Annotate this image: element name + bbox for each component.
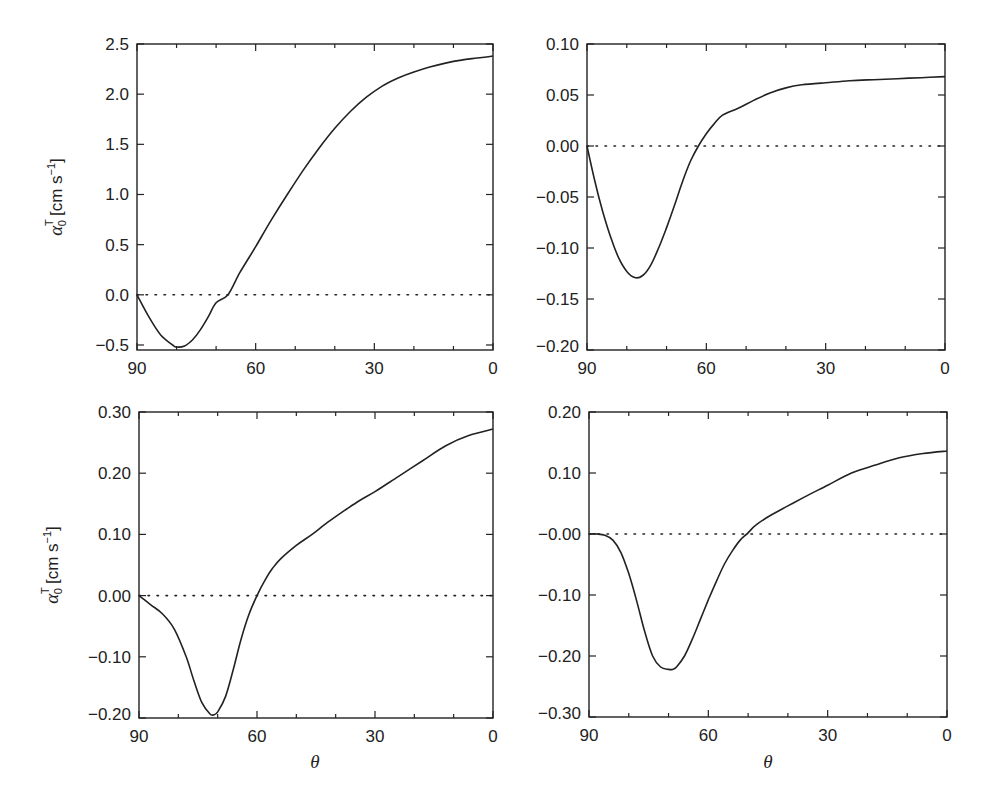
y-tick-label: 0.05	[546, 86, 579, 105]
y-tick-label: 0.00	[546, 137, 579, 156]
panel-bottom-right: 9060300−0.30−0.20−0.10−0.000.100.20	[538, 403, 952, 745]
x-tick-label: 60	[699, 726, 718, 745]
x-axis-label-bottom-left: θ	[310, 751, 319, 772]
y-tick-label: 0.10	[98, 525, 131, 544]
x-axis-label-bottom-right: θ	[763, 751, 772, 772]
y-tick-label: −0.10	[88, 648, 131, 667]
y-tick-label: −0.20	[88, 705, 131, 724]
x-tick-label: 0	[942, 726, 951, 745]
y-axis-label-top: αT0[cm s−1]	[43, 158, 68, 236]
data-curve	[589, 451, 947, 670]
x-tick-label: 0	[488, 359, 497, 378]
x-tick-label: 0	[940, 359, 949, 378]
y-tick-label: 0.30	[98, 403, 131, 422]
y-tick-label: 2.0	[105, 85, 129, 104]
four-panel-line-chart: 9060300−0.50.00.51.01.52.02.5 9060300−0.…	[0, 0, 982, 808]
y-tick-label: −0.10	[538, 586, 581, 605]
panel-bottom-left: 9060300−0.20−0.100.000.100.200.30	[88, 403, 498, 746]
x-tick-label: 90	[578, 359, 597, 378]
svg-text:αT0[cm s−1]: αT0[cm s−1]	[43, 158, 68, 236]
x-tick-label: 90	[580, 726, 599, 745]
data-curve	[587, 77, 945, 278]
y-tick-label: 0.20	[98, 464, 131, 483]
data-curve	[137, 56, 493, 347]
x-tick-label: 90	[130, 727, 149, 746]
y-tick-label: −0.20	[536, 337, 579, 356]
y-tick-label: −0.5	[95, 336, 129, 355]
x-tick-label: 60	[697, 359, 716, 378]
x-tick-label: 30	[818, 726, 837, 745]
x-tick-label: 30	[366, 727, 385, 746]
y-tick-label: 2.5	[105, 35, 129, 54]
x-tick-label: 60	[246, 359, 265, 378]
y-tick-label: −0.10	[536, 239, 579, 258]
y-tick-label: 0.5	[105, 236, 129, 255]
y-tick-label: 0.10	[546, 35, 579, 54]
x-tick-label: 0	[488, 727, 497, 746]
svg-text:αT0[cm s−1]: αT0[cm s−1]	[39, 526, 64, 604]
plot-frame	[589, 412, 947, 717]
figure: 9060300−0.50.00.51.01.52.02.5 9060300−0.…	[0, 0, 982, 808]
y-tick-label: 0.00	[98, 587, 131, 606]
y-tick-label: −0.15	[536, 290, 579, 309]
y-axis-label-bottom: αT0[cm s−1]	[39, 526, 64, 604]
y-tick-label: −0.20	[538, 647, 581, 666]
x-tick-label: 90	[128, 359, 147, 378]
x-tick-label: 30	[365, 359, 384, 378]
plot-frame	[139, 412, 493, 718]
y-tick-label: 0.20	[548, 403, 581, 422]
plot-frame	[587, 44, 945, 350]
y-tick-label: −0.05	[536, 188, 579, 207]
y-tick-label: −0.00	[538, 525, 581, 544]
y-tick-label: 0.10	[548, 464, 581, 483]
x-tick-label: 30	[816, 359, 835, 378]
panel-top-left: 9060300−0.50.00.51.01.52.02.5	[95, 35, 497, 378]
data-curve	[139, 429, 493, 715]
plot-frame	[137, 44, 493, 350]
y-tick-label: 0.0	[105, 286, 129, 305]
y-tick-label: 1.0	[105, 185, 129, 204]
y-tick-label: −0.30	[538, 704, 581, 723]
panel-top-right: 9060300−0.20−0.15−0.10−0.050.000.050.10	[536, 35, 950, 378]
y-tick-label: 1.5	[105, 135, 129, 154]
x-tick-label: 60	[248, 727, 267, 746]
